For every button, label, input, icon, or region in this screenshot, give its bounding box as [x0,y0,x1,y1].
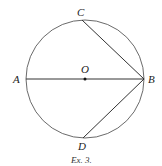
label-b: B [148,73,155,85]
label-d: D [77,140,86,152]
label-o: O [81,63,89,75]
label-a: A [12,73,20,85]
caption: Ex. 3. [70,155,92,165]
chord-cb [82,20,144,79]
center-point-o [84,78,87,81]
label-c: C [77,6,85,18]
chord-db [83,79,144,138]
geometry-figure: A B C D O Ex. 3. [0,0,162,166]
